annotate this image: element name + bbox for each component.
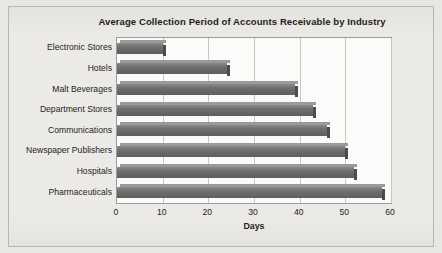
- x-axis-ticks: 0102030405060: [116, 207, 392, 219]
- chart-frame: Average Collection Period of Accounts Re…: [8, 6, 434, 247]
- y-axis-labels: Electronic StoresHotelsMalt BeveragesDep…: [9, 37, 112, 204]
- x-axis-tick-label: 20: [203, 207, 213, 217]
- bar: [117, 84, 295, 95]
- bar-row: [117, 162, 391, 183]
- x-axis-tick-label: 10: [157, 207, 167, 217]
- bar: [117, 105, 313, 116]
- bar-row: [117, 121, 391, 142]
- bar-row: [117, 182, 391, 203]
- bar-row: [117, 141, 391, 162]
- y-axis-label: Hospitals: [9, 166, 112, 176]
- y-axis-label: Newspaper Publishers: [9, 145, 112, 155]
- x-axis-tick-label: 0: [114, 207, 119, 217]
- y-axis-label: Department Stores: [9, 104, 112, 114]
- bar: [117, 125, 327, 136]
- x-axis-tick-label: 60: [385, 207, 395, 217]
- bar: [117, 187, 382, 198]
- x-axis-title: Days: [116, 221, 392, 231]
- bar-row: [117, 38, 391, 59]
- y-axis-label: Malt Beverages: [9, 84, 112, 94]
- bar-row: [117, 59, 391, 80]
- y-axis-label: Electronic Stores: [9, 42, 112, 52]
- plot-area: [116, 37, 392, 204]
- bar: [117, 63, 227, 74]
- gridline: [391, 38, 392, 203]
- bar-row: [117, 79, 391, 100]
- bar-row: [117, 100, 391, 121]
- x-axis-tick-label: 40: [294, 207, 304, 217]
- y-axis-label: Hotels: [9, 63, 112, 73]
- chart-title: Average Collection Period of Accounts Re…: [9, 16, 435, 27]
- bar: [117, 43, 163, 54]
- bar: [117, 167, 354, 178]
- x-axis-tick-label: 50: [340, 207, 350, 217]
- chart-title-text: Average Collection Period of Accounts Re…: [58, 16, 385, 27]
- bar: [117, 146, 345, 157]
- y-axis-label: Communications: [9, 125, 112, 135]
- y-axis-label: Pharmaceuticals: [9, 187, 112, 197]
- x-axis-tick-label: 30: [248, 207, 258, 217]
